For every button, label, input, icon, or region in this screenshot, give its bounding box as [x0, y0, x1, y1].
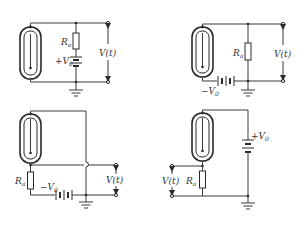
output-terminal [106, 21, 109, 24]
battery-label: −V0 [40, 182, 58, 193]
battery-icon [56, 190, 72, 200]
output-terminal [170, 194, 173, 197]
ground-icon [79, 202, 93, 208]
output-terminal [106, 80, 109, 83]
ground-icon [241, 90, 255, 96]
output-terminal [114, 193, 117, 196]
ground-icon [69, 90, 83, 96]
circuit-a: Ra +V0 V(t) [20, 21, 117, 96]
resistor-icon [200, 171, 206, 188]
resistor-label: Ra [232, 48, 244, 59]
resistor-icon [73, 33, 79, 49]
battery-icon [242, 140, 254, 152]
wire-top [31, 23, 109, 27]
battery-label: +V0 [55, 56, 73, 67]
wire-bottom [31, 79, 109, 82]
vacuum-tube-icon [192, 112, 213, 161]
output-terminal [281, 79, 284, 82]
output-terminal [281, 22, 284, 25]
output-voltage-label: V(t) [99, 48, 117, 58]
vacuum-tube-icon [20, 113, 41, 163]
output-terminal [170, 164, 173, 167]
resistor-label: Ra [185, 176, 197, 187]
circuit-b: Ra −V0 V(t) [192, 22, 292, 97]
ground-icon [241, 203, 255, 209]
circuit-d: Ra +V0 V(t) [162, 110, 269, 209]
circuit-diagram: Ra +V0 V(t) [0, 0, 305, 230]
output-voltage-label: V(t) [162, 176, 180, 186]
output-terminal [114, 163, 117, 166]
battery-label: −V0 [201, 86, 219, 97]
vacuum-tube-icon [20, 26, 41, 79]
battery-icon [218, 76, 234, 86]
resistor-icon [245, 43, 251, 60]
resistor-label: Ra [14, 176, 26, 187]
resistor-label: Ra [60, 37, 72, 48]
battery-label: +V0 [251, 131, 269, 142]
output-voltage-label: V(t) [274, 49, 292, 59]
output-voltage-label: V(t) [106, 175, 124, 185]
circuit-c: Ra −V0 V(t) [14, 111, 124, 208]
vacuum-tube-icon [192, 26, 213, 77]
resistor-icon [28, 172, 34, 189]
